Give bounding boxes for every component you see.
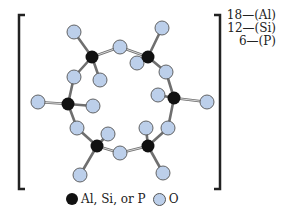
oxygen-atom (113, 40, 127, 54)
black-atom-legend-icon (66, 193, 78, 205)
oxygen-atom (67, 70, 81, 84)
legend: Al, Si, or P O (66, 192, 179, 206)
oxygen-atom (113, 146, 127, 160)
legend-black-label: Al, Si, or P (81, 192, 146, 206)
al-si-p-atom (142, 51, 155, 64)
al-si-p-atom (86, 51, 99, 64)
al-si-p-atom (168, 92, 181, 105)
oxygen-atom (139, 121, 153, 135)
oxygen-atom (155, 21, 169, 35)
composition-labels: 18—(Al) 12—(Si) 6—(P) (226, 9, 276, 48)
oxygen-atom (93, 73, 107, 87)
oxygen-atom (200, 95, 214, 109)
oxygen-atom (86, 99, 100, 113)
oxygen-atoms (31, 21, 214, 182)
oxygen-atom (73, 168, 87, 182)
oxygen-atom (156, 166, 170, 180)
oxygen-atom (161, 121, 175, 135)
oxygen-atom (31, 95, 45, 109)
oxygen-atom (67, 25, 81, 39)
oxygen-atom (159, 65, 173, 79)
al-si-p-atom (91, 140, 104, 153)
oxygen-atom (70, 121, 84, 135)
oxygen-legend-icon (153, 193, 166, 206)
oxygen-atom (101, 127, 115, 141)
al-si-p-atom (142, 140, 155, 153)
right-bracket (214, 15, 220, 189)
label-p: 6—(P) (226, 35, 276, 48)
left-bracket (19, 15, 25, 189)
legend-oxygen-label: O (169, 192, 179, 206)
al-si-p-atom (62, 98, 75, 111)
oxygen-atom (151, 88, 165, 102)
